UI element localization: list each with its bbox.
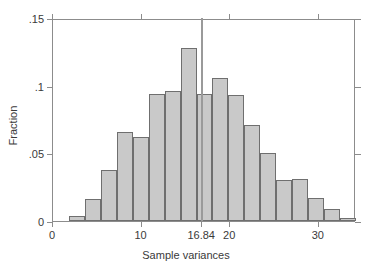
- frame-cap: [141, 14, 142, 19]
- frame-cap: [355, 87, 361, 88]
- x-axis: Sample variances 01016.842030: [0, 222, 372, 278]
- frame-cap: [355, 222, 361, 223]
- histogram-bar: [308, 198, 324, 221]
- x-tick-label: 30: [312, 230, 324, 241]
- histogram-bar: [197, 94, 213, 221]
- histogram-bar: [85, 199, 101, 221]
- x-tick-mark: [201, 222, 202, 227]
- bars-layer: [53, 20, 354, 221]
- histogram-bar: [117, 132, 133, 221]
- frame-cap: [52, 14, 53, 19]
- histogram-bar: [69, 216, 85, 221]
- reference-line-16-84: [201, 18, 203, 221]
- x-tick-mark: [52, 222, 53, 227]
- x-tick-label: 16.84: [187, 230, 215, 241]
- histogram-bar: [149, 94, 165, 221]
- histogram-bar: [133, 137, 149, 221]
- frame-cap: [318, 14, 319, 19]
- x-tick-mark: [318, 222, 319, 227]
- x-axis-title: Sample variances: [0, 250, 372, 261]
- x-tick-mark: [141, 222, 142, 227]
- y-axis-title: Fraction: [8, 81, 19, 171]
- frame-cap: [355, 154, 361, 155]
- histogram-bar: [165, 91, 181, 221]
- x-tick-mark: [229, 222, 230, 227]
- histogram-bar: [276, 180, 292, 221]
- y-tick-label: .1: [35, 81, 44, 92]
- y-tick-label: .05: [29, 149, 44, 160]
- histogram-bar: [244, 125, 260, 221]
- histogram-bar: [101, 170, 117, 221]
- frame-cap: [355, 19, 361, 20]
- frame-cap: [229, 14, 230, 19]
- x-tick-label: 20: [223, 230, 235, 241]
- histogram-bar: [212, 78, 228, 221]
- histogram-bar: [292, 179, 308, 221]
- plot-area: [52, 19, 355, 222]
- histogram-bar: [181, 48, 197, 221]
- y-tick-label: .15: [29, 14, 44, 25]
- x-tick-label: 0: [49, 230, 55, 241]
- histogram-bar: [324, 209, 340, 221]
- histogram-bar: [260, 153, 276, 221]
- x-tick-label: 10: [134, 230, 146, 241]
- histogram-figure: Fraction 0.05.1.15 Sample variances 0101…: [0, 0, 372, 278]
- frame-cap: [47, 19, 52, 20]
- histogram-bar: [340, 218, 356, 221]
- histogram-bar: [228, 95, 244, 221]
